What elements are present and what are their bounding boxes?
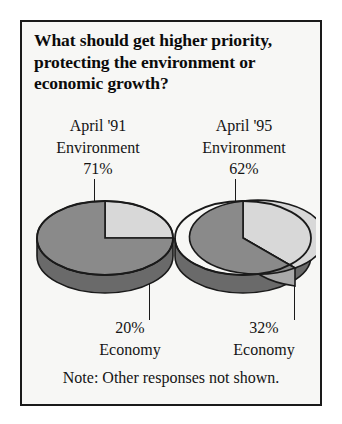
chart-category-label: Economy (194, 339, 334, 361)
chart-value-economy: 20% (115, 319, 144, 336)
chart-category-label: Environment (202, 139, 286, 156)
chart-value-environment: 62% (174, 158, 314, 180)
chart-category-label: Economy (60, 339, 200, 361)
figure-note: Note: Other responses not shown. (22, 369, 320, 387)
infographic-panel: What should get higher priority, protect… (20, 20, 322, 406)
pie-chart-april-95 (170, 182, 316, 294)
pie-chart-april-91 (32, 182, 178, 294)
chart-bottom-label-april-95: 32% Economy (194, 317, 334, 360)
chart-date-label: April '91 (70, 117, 127, 134)
chart-top-label-april-91: April '91 Environment 71% (28, 115, 168, 180)
chart-value-economy: 32% (249, 319, 278, 336)
chart-bottom-label-april-91: 20% Economy (60, 317, 200, 360)
chart-value-environment: 71% (28, 158, 168, 180)
chart-top-label-april-95: April '95 Environment 62% (174, 115, 314, 180)
page-title: What should get higher priority, protect… (34, 30, 312, 95)
chart-date-label: April '95 (216, 117, 273, 134)
chart-category-label: Environment (56, 139, 140, 156)
